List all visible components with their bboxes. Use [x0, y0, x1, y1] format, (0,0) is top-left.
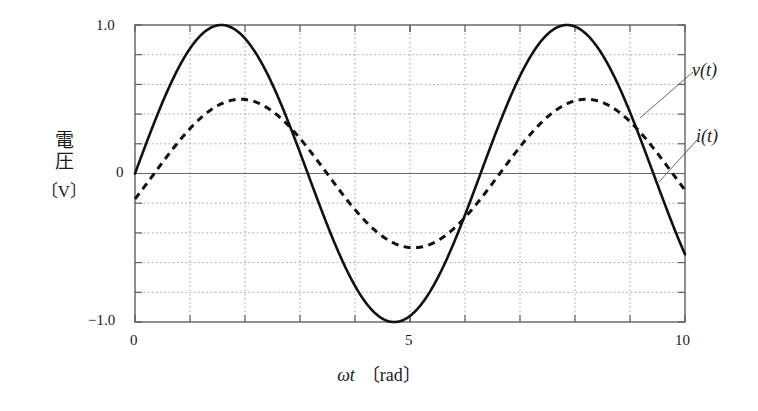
- y-axis-label-kanji-2: 圧: [34, 151, 94, 172]
- annotation-v-of-t: v(t): [692, 60, 717, 81]
- y-tick-label-mid: 0: [116, 165, 124, 180]
- x-axis-label-unit: 〔rad〕: [362, 365, 421, 385]
- annotation-i-of-t: i(t): [696, 126, 718, 147]
- x-tick-label-0: 0: [130, 333, 138, 348]
- x-axis-label-symbol: ωt: [337, 365, 355, 385]
- chart-plot-svg: [0, 0, 758, 411]
- y-tick-label-bottom: −1.0: [88, 313, 115, 328]
- leader-line-i: [659, 140, 697, 182]
- x-tick-label-5: 5: [405, 333, 413, 348]
- x-axis-label: ωt〔rad〕: [0, 360, 758, 386]
- x-tick-label-10: 10: [675, 333, 690, 348]
- y-axis-label: 電 圧 〔V〕: [34, 130, 94, 201]
- y-tick-label-top: 1.0: [96, 18, 115, 33]
- y-axis-label-kanji-1: 電: [34, 130, 94, 151]
- chart-figure: 1.0 0 −1.0 0 5 10 電 圧 〔V〕 ωt〔rad〕 v(t) i…: [0, 0, 758, 411]
- y-axis-label-unit: 〔V〕: [34, 182, 94, 201]
